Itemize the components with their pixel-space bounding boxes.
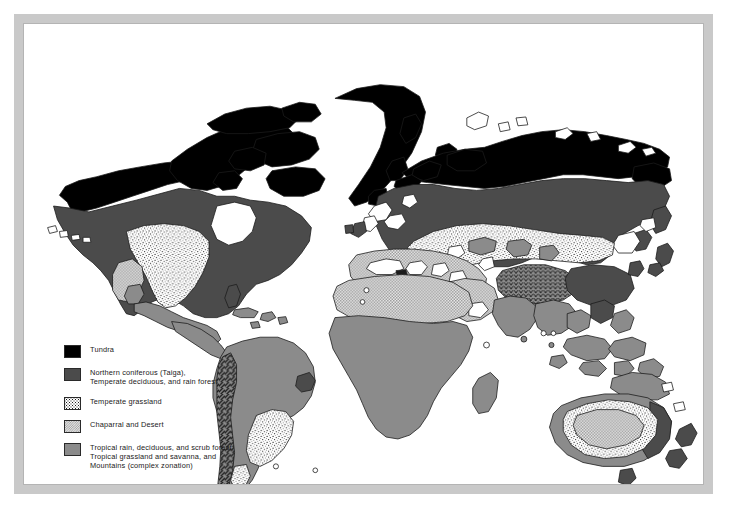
legend-swatch-temperate-grassland bbox=[64, 397, 81, 410]
legend-swatch-tropical bbox=[64, 443, 81, 456]
figure-container: Tundra Northern coniferous (Taiga), Temp… bbox=[0, 0, 729, 518]
legend-label-tropical: Tropical rain, deciduous, and scrub fore… bbox=[90, 442, 234, 471]
legend-swatch-northern-coniferous bbox=[64, 368, 81, 381]
legend-item-northern-coniferous[interactable]: Northern coniferous (Taiga), Temperate d… bbox=[64, 367, 314, 387]
map-frame-border: Tundra Northern coniferous (Taiga), Temp… bbox=[14, 14, 713, 494]
legend-item-temperate-grassland[interactable]: Temperate grassland bbox=[64, 396, 314, 410]
map-legend: Tundra Northern coniferous (Taiga), Temp… bbox=[64, 344, 314, 479]
map-plate: Tundra Northern coniferous (Taiga), Temp… bbox=[23, 23, 704, 485]
legend-label-temperate-grassland: Temperate grassland bbox=[90, 396, 162, 406]
legend-item-chaparral-desert[interactable]: Chaparral and Desert bbox=[64, 419, 314, 433]
legend-swatch-tundra bbox=[64, 345, 81, 358]
legend-item-tropical[interactable]: Tropical rain, deciduous, and scrub fore… bbox=[64, 442, 314, 471]
legend-label-chaparral-desert: Chaparral and Desert bbox=[90, 419, 164, 429]
legend-label-northern-coniferous: Northern coniferous (Taiga), Temperate d… bbox=[90, 367, 217, 387]
legend-item-tundra[interactable]: Tundra bbox=[64, 344, 314, 358]
legend-label-tundra: Tundra bbox=[90, 344, 114, 354]
legend-swatch-chaparral-desert bbox=[64, 420, 81, 433]
